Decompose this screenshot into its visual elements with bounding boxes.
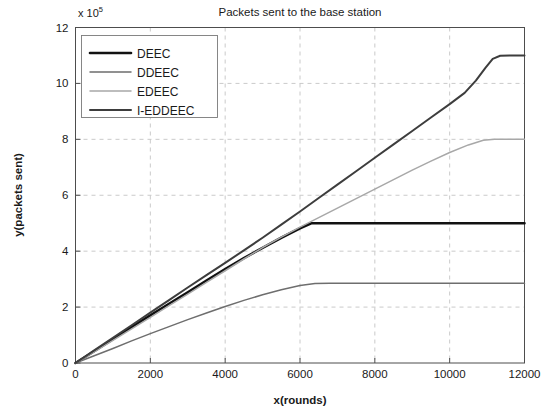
x-tick-label: 8000 [362,368,388,380]
x-axis-label: x(rounds) [273,394,326,406]
y-tick-label: 8 [62,133,68,145]
x-tick-label: 12000 [509,368,541,380]
x-tick-label: 2000 [138,368,164,380]
y-tick-label: 6 [62,189,68,201]
y-tick-label: 10 [56,77,69,89]
packets-sent-line-chart: 020004000600080001000012000 024681012 Pa… [0,0,554,413]
legend-label-deec: DEEC [137,47,171,61]
y-tick-label: 4 [62,245,69,257]
x-tick-label: 4000 [212,368,238,380]
y-axis-label: y(packets sent) [12,153,24,237]
x-tick-label: 6000 [287,368,313,380]
chart-title: Packets sent to the base station [218,6,381,18]
legend-label-i-eddeec: I-EDDEEC [137,104,195,118]
y-tick-label: 12 [56,22,69,34]
chart-legend: DEECDDEECEDEECI-EDDEEC [82,36,218,118]
chart-figure: 020004000600080001000012000 024681012 Pa… [0,0,554,413]
x-tick-label: 0 [72,368,78,380]
legend-label-ddeec: DDEEC [137,66,179,80]
x-tick-label: 10000 [434,368,466,380]
legend-label-edeec: EDEEC [137,85,179,99]
y-tick-label: 0 [62,357,68,369]
y-tick-label: 2 [62,301,68,313]
